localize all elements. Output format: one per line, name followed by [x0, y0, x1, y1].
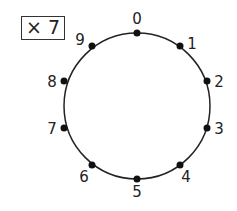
point-label: 7: [47, 120, 57, 138]
points-group: 0123456789: [47, 10, 224, 201]
point-dot: [204, 78, 211, 85]
point-label: 4: [181, 168, 191, 186]
point-label: 6: [79, 168, 89, 186]
point-label: 5: [132, 183, 142, 201]
point-dot: [61, 78, 68, 85]
point-label: 0: [132, 10, 142, 28]
point-dot: [177, 43, 184, 50]
point-label: 8: [47, 73, 57, 91]
modular-circle-diagram: 0123456789: [0, 0, 237, 211]
point-dot: [89, 43, 96, 50]
circle: [64, 33, 210, 179]
point-label: 1: [187, 35, 197, 53]
point-dot: [204, 125, 211, 132]
point-dot: [61, 125, 68, 132]
point-label: 3: [214, 120, 224, 138]
point-label: 2: [214, 73, 224, 91]
point-dot: [89, 162, 96, 169]
point-dot: [134, 176, 141, 183]
point-label: 9: [75, 31, 85, 49]
point-dot: [134, 30, 141, 37]
